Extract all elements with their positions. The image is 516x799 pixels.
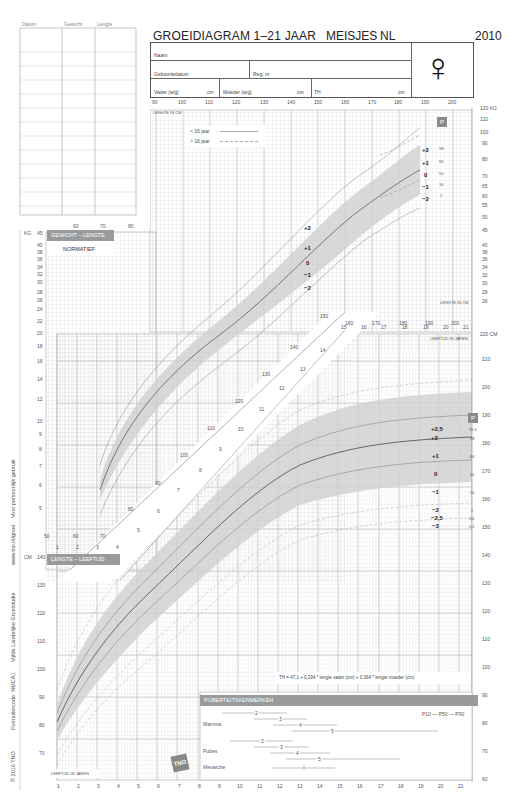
form-code-text: Formuliercode: NMCA1 (10, 673, 16, 730)
female-symbol-icon: ♀ (423, 45, 453, 89)
copyright-text: © 2010 TNO (10, 751, 16, 782)
puberty-row-menarche: Menarche (203, 764, 225, 770)
study-name-text: Vijfde Landelijke Groeistudie (10, 592, 16, 662)
th-field[interactable]: TH (314, 89, 321, 95)
target-height-formula: TH = 47,1 + 0,334 * lengte vader (cm) + … (279, 675, 414, 680)
patient-info-form: Naam Geboortedatum Reg. nr Vader (a/g) c… (150, 42, 474, 98)
sex-label: MEISJES (326, 29, 377, 43)
weight-length-panel-title: GEWICHT – LENGTE (47, 230, 114, 241)
th-cm-unit: cm (398, 89, 405, 95)
reg-nr-field[interactable]: Reg. nr (253, 71, 269, 77)
column-header-lengte: Lengte (97, 21, 112, 27)
length-age-panel-title: LENGTE – LEEFTIJD (47, 554, 120, 565)
age-axis-label-top: LEEFTIJD IN JAREN (430, 336, 468, 341)
column-header-datum: Datum (22, 21, 37, 27)
country-label: NL (380, 29, 395, 43)
column-header-gewicht: Gewicht (64, 21, 82, 27)
moeder-length-field[interactable]: Moeder (a/g) (223, 89, 252, 95)
puberty-panel-title: PUBERTEITSKENMERKEN (200, 695, 478, 706)
vader-cm-unit: cm (207, 89, 214, 95)
geboortedatum-field[interactable]: Geboortedatum (154, 71, 189, 77)
percentile-badge-upper: P (437, 117, 447, 127)
cm-axis-unit: CM (24, 554, 32, 560)
chart-legend: < 16 jaar > 16 jaar (185, 125, 265, 147)
age-axis-label-bottom: LEEFTIJD IN JAREN (51, 771, 89, 776)
percentile-badge-lower: P (468, 413, 478, 423)
tno-logo-icon: TNO (171, 754, 190, 773)
naam-field[interactable]: Naam (154, 52, 167, 58)
moeder-cm-unit: cm (297, 89, 304, 95)
vader-length-field[interactable]: Vader (a/g) (154, 89, 179, 95)
website-text: www.tno.nl/groei (10, 525, 16, 565)
puberty-row-mamma: Mamma (203, 721, 221, 727)
length-axis-label-top: LENGTE IN CM (153, 110, 181, 115)
personal-use-text: Voor persoonlijk gebruik (10, 459, 16, 518)
puberty-legend: P10 — P50 — P90 (422, 711, 464, 717)
page-title: GROEIDIAGRAM 1–21 JAAR (153, 29, 316, 43)
normatief-label: NORMATIEF (63, 246, 95, 252)
puberty-row-pubes: Pubes (203, 748, 217, 754)
year-label: 2010 (475, 29, 502, 43)
